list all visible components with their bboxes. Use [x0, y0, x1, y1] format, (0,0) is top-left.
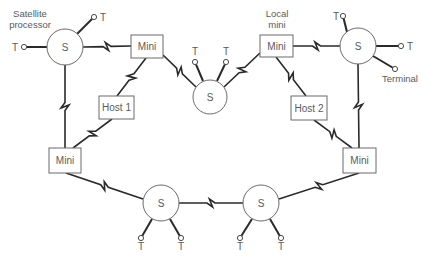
box-label: Host 2: [295, 103, 324, 114]
box-label: Mini: [138, 41, 156, 52]
link-s-br-to-mini-br: [279, 173, 359, 199]
terminal-stub: [270, 219, 281, 238]
terminal-label: T: [407, 41, 413, 52]
terminal-t-bl-left: T: [138, 219, 152, 252]
terminal-icon: [21, 44, 26, 49]
terminal-label: T: [223, 46, 229, 57]
terminal-label: T: [178, 241, 184, 252]
terminal-icon: [278, 235, 283, 240]
terminal-stub: [373, 56, 395, 69]
box-node-mini-bottom-left: Mini: [49, 148, 81, 173]
local-mini-label: Localmini: [266, 8, 289, 30]
terminal-icon: [138, 235, 143, 240]
link-s-tl-to-mini-bl: [61, 65, 69, 148]
nodes-layer: SSSSSMiniMiniHost 1Host 2MiniMini: [47, 28, 376, 221]
terminal-stub: [217, 62, 226, 81]
satellite-label: S: [62, 42, 69, 53]
link-s-center-to-mini-tr: [224, 53, 260, 87]
terminal-icon: [340, 13, 345, 18]
box-node-mini-top-left: Mini: [131, 35, 163, 58]
satellite-label: S: [207, 92, 214, 103]
box-label: Host 1: [102, 102, 131, 113]
annotation-line: Local: [266, 8, 289, 19]
terminal-icon: [237, 235, 242, 240]
annotation-line: processor: [9, 19, 51, 30]
satellite-node-s-top-right: S: [340, 28, 376, 64]
satellite-processor-label: Satelliteprocessor: [9, 8, 51, 30]
terminal-icon: [398, 43, 403, 48]
satellite-node-s-bottom-left: S: [143, 185, 179, 221]
network-diagram: TTTTTTTTTT SSSSSMiniMiniHost 1Host 2Mini…: [0, 0, 422, 263]
terminal-stub: [240, 219, 252, 238]
box-node-mini-top-right: Mini: [260, 35, 293, 57]
annotation-line: mini: [268, 19, 285, 30]
link-mini-bl-to-s-bl: [66, 173, 143, 199]
terminal-stub: [77, 17, 94, 34]
terminal-stub: [170, 219, 181, 238]
annotation-line: Terminal: [382, 73, 418, 84]
box-label: Mini: [350, 155, 368, 166]
terminal-label: T: [12, 42, 18, 53]
terminal-t-br-right: T: [270, 219, 284, 252]
terminal-icon: [223, 59, 228, 64]
link-mini-tl-to-s-center: [163, 55, 196, 87]
box-node-mini-bottom-right: Mini: [343, 148, 376, 173]
links-layer: [61, 42, 362, 207]
terminal-t-bl-right: T: [170, 219, 184, 252]
satellite-node-s-top-center: S: [193, 80, 227, 114]
link-s-tr-to-mini-br: [355, 64, 363, 148]
terminal-t-center-left: T: [192, 46, 203, 81]
terminal-t-br-left: T: [237, 219, 252, 252]
terminal-stub: [141, 219, 152, 238]
link-mini-tr-to-host2: [276, 57, 306, 96]
terminal-label: T: [192, 46, 198, 57]
terminal-icon: [392, 66, 397, 71]
terminal-label: Terminal: [382, 73, 418, 84]
terminal-label: T: [333, 11, 339, 22]
link-host2-to-mini-br: [314, 120, 352, 148]
terminal-label: T: [138, 241, 144, 252]
terminal-t-tr-right: T: [376, 41, 413, 52]
terminal-t-center-right: T: [217, 46, 229, 81]
link-s-tl-to-mini-tl: [83, 43, 131, 51]
satellite-label: S: [158, 198, 165, 209]
link-host1-to-mini-bl: [73, 119, 112, 148]
terminal-t-tl-upright: T: [77, 12, 106, 34]
box-label: Mini: [56, 155, 74, 166]
satellite-label: S: [258, 198, 265, 209]
terminal-t-tr-upleft: T: [333, 11, 347, 32]
link-mini-tr-to-s-tr: [293, 42, 340, 50]
terminal-t-tr-terminal: [373, 56, 398, 72]
terminal-label: T: [278, 241, 284, 252]
satellite-node-s-top-left: S: [47, 29, 83, 65]
terminal-label: T: [237, 241, 243, 252]
box-node-host-1: Host 1: [99, 96, 134, 119]
box-label: Mini: [267, 41, 285, 52]
link-mini-tl-to-host1: [117, 58, 146, 96]
terminal-icon: [178, 235, 183, 240]
satellite-label: S: [355, 41, 362, 52]
terminal-icon: [91, 14, 96, 19]
box-node-host-2: Host 2: [291, 96, 327, 120]
terminal-label: T: [100, 12, 106, 23]
terminal-t-tl-left: T: [12, 42, 47, 53]
terminal-icon: [192, 59, 197, 64]
satellite-node-s-bottom-right: S: [243, 185, 279, 221]
annotation-line: Satellite: [13, 8, 47, 19]
link-s-bl-to-s-br: [179, 199, 243, 207]
